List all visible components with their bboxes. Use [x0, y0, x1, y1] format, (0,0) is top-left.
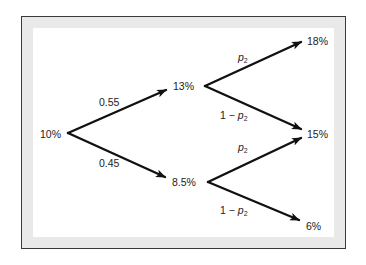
prob-sub: 2	[244, 57, 248, 64]
node-middle: 15%	[307, 129, 328, 140]
prob-prefix: 1 −	[220, 204, 238, 216]
arrow-down-middle	[208, 138, 301, 182]
node-up: 13%	[173, 81, 194, 92]
arrow-up-upup	[205, 42, 301, 86]
arrow-up-middle	[205, 86, 301, 129]
node-downdown: 6%	[306, 221, 321, 232]
prob-down-downdown: 1 − p2	[220, 205, 248, 217]
node-upup: 18%	[307, 36, 328, 47]
prob-sub: 2	[244, 147, 248, 154]
prob-sub: 2	[244, 210, 248, 217]
node-down: 8.5%	[172, 177, 196, 188]
prob-prefix: 1 −	[220, 109, 238, 121]
prob-up-upup: p2	[238, 52, 248, 64]
arrow-root-down	[68, 133, 165, 177]
prob-up-middle: 1 − p2	[220, 110, 248, 122]
prob-sub: 2	[244, 115, 248, 122]
prob-root-up: 0.55	[99, 97, 119, 108]
prob-down-middle: p2	[238, 142, 248, 154]
prob-root-down: 0.45	[99, 158, 119, 169]
node-root: 10%	[40, 129, 61, 140]
